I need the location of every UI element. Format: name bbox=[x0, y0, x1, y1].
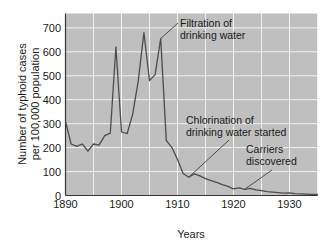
x-tick-1900: 1900 bbox=[109, 198, 133, 210]
x-axis-tick-labels: 18901900191019201930 bbox=[53, 198, 301, 210]
x-tick-1910: 1910 bbox=[165, 198, 189, 210]
typhoid-cases-line-chart: 0100200300400500600700 18901900191019201… bbox=[0, 0, 331, 244]
y-tick-100: 100 bbox=[43, 166, 61, 178]
chlorination-label-line1: Chlorination of bbox=[186, 114, 254, 126]
x-tick-1890: 1890 bbox=[53, 198, 77, 210]
chart-figure: 0100200300400500600700 18901900191019201… bbox=[0, 0, 331, 244]
x-tick-1920: 1920 bbox=[221, 198, 245, 210]
carriers-label-line1: Carriers bbox=[246, 143, 283, 155]
y-tick-300: 300 bbox=[43, 118, 61, 130]
x-axis-title: Years bbox=[177, 228, 205, 240]
filtration-label-line1: Filtration of bbox=[180, 17, 232, 29]
x-tick-1930: 1930 bbox=[277, 198, 301, 210]
carriers-label-line2: discovered bbox=[246, 155, 297, 167]
y-tick-400: 400 bbox=[43, 94, 61, 106]
y-tick-500: 500 bbox=[43, 70, 61, 82]
y-tick-200: 200 bbox=[43, 142, 61, 154]
y-axis-title-line1: Number of typhoid cases bbox=[16, 43, 28, 165]
y-tick-600: 600 bbox=[43, 46, 61, 58]
y-axis-title-line2: per 100,000 population bbox=[29, 48, 41, 161]
y-tick-700: 700 bbox=[43, 22, 61, 34]
chlorination-label-line2: drinking water started bbox=[186, 126, 287, 138]
y-axis-tick-labels: 0100200300400500600700 bbox=[43, 22, 61, 202]
filtration-label-line2: drinking water bbox=[180, 29, 246, 41]
